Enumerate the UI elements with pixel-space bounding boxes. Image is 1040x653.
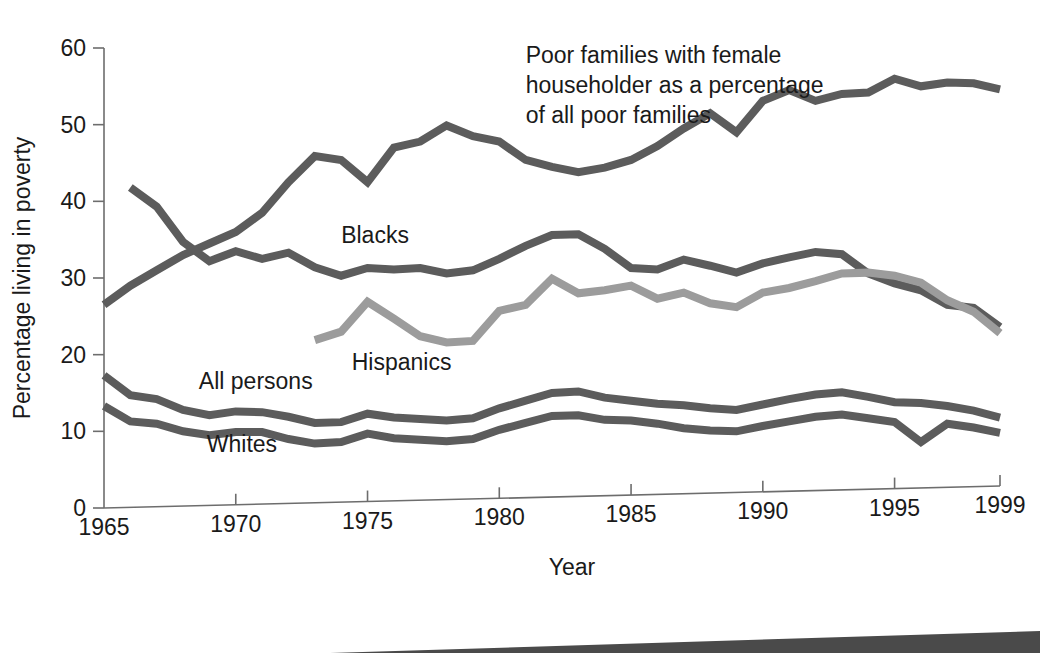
y-axis-title: Percentage living in poverty: [9, 136, 35, 419]
y-tick-label: 10: [60, 418, 86, 444]
poverty-line-chart-figure: 0102030405060196519701975198019851990199…: [0, 0, 1040, 653]
chart-canvas: 0102030405060196519701975198019851990199…: [0, 0, 1040, 653]
x-tick-label: 1970: [210, 511, 261, 537]
annotation-line: Poor families with female: [526, 42, 782, 68]
x-tick-label: 1990: [737, 498, 788, 524]
x-tick-label: 1995: [869, 495, 920, 521]
x-tick-label: 1985: [605, 501, 656, 527]
x-tick-label: 1999: [974, 492, 1025, 518]
x-tick-label: 1975: [342, 508, 393, 534]
y-tick-label: 40: [60, 188, 86, 214]
x-tick-label: 1965: [78, 514, 129, 540]
series-label-blacks: Blacks: [341, 222, 409, 248]
series-label-whites: Whites: [207, 431, 277, 457]
y-tick-label: 20: [60, 342, 86, 368]
y-tick-label: 30: [60, 265, 86, 291]
page-edge-artifact: [330, 631, 1040, 653]
x-axis-line: [104, 486, 1000, 508]
series-label-all-persons: All persons: [199, 368, 313, 394]
x-axis-title: Year: [549, 554, 596, 580]
female-householder-annotation: Poor families with femalehouseholder as …: [526, 42, 824, 128]
series-label-hispanics: Hispanics: [352, 349, 452, 375]
annotation-line: of all poor families: [526, 102, 711, 128]
annotation-line: householder as a percentage: [526, 72, 824, 98]
x-tick-label: 1980: [474, 504, 525, 530]
y-tick-label: 50: [60, 112, 86, 138]
y-tick-label: 60: [60, 35, 86, 61]
